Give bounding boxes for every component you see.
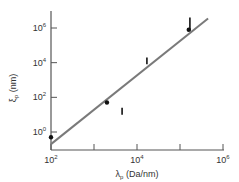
plot-area: 100102104106 102104106: [33, 11, 231, 165]
x-tick-label: 102: [44, 154, 58, 165]
fit-line: [51, 19, 208, 145]
y-axis-title: ξp (nm): [8, 74, 19, 102]
y-axis-units: (nm): [8, 74, 18, 95]
x-axis-units: (Da/nm): [123, 169, 158, 179]
y-axis-ticks: 100102104106: [33, 22, 57, 137]
y-tick-label: 100: [33, 126, 47, 137]
x-axis-title: λp (Da/nm): [116, 169, 159, 180]
y-tick-label: 104: [33, 57, 47, 68]
chart: 100102104106 102104106 λp (Da/nm) ξp (nm…: [0, 0, 239, 182]
data-point: [49, 135, 53, 139]
y-tick-label: 106: [33, 22, 47, 33]
data-point: [105, 100, 109, 104]
x-tick-label: 106: [216, 154, 230, 165]
data-markers: [49, 18, 191, 140]
y-tick-label: 102: [33, 91, 47, 102]
x-axis-ticks: 102104106: [44, 144, 230, 165]
x-tick-label: 104: [130, 154, 144, 165]
